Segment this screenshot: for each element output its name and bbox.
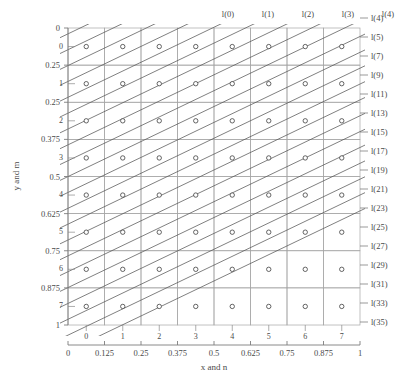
inner-row-index-label: 5 bbox=[59, 228, 63, 236]
right-line-label: l(25) bbox=[371, 223, 388, 232]
data-point-marker bbox=[230, 119, 234, 123]
y-axis-title: y and m bbox=[12, 162, 21, 191]
data-point-marker bbox=[230, 304, 234, 308]
data-point-marker bbox=[194, 81, 198, 85]
right-line-label: l(17) bbox=[371, 147, 388, 156]
data-point-marker bbox=[84, 119, 88, 123]
data-point-marker bbox=[340, 304, 344, 308]
figure-container: 00.250.250.3750.50.6250.750.8751 00.1250… bbox=[0, 0, 406, 382]
data-point-marker bbox=[303, 304, 307, 308]
right-line-label: l(7) bbox=[371, 52, 383, 61]
x-axis-tick-label: 0 bbox=[66, 349, 70, 358]
data-point-marker bbox=[303, 156, 307, 160]
y-axis-tick-label: 0.625 bbox=[14, 209, 60, 218]
y-axis-tick-label: 0.25 bbox=[14, 61, 60, 70]
inner-column-index-label: 1 bbox=[121, 333, 125, 341]
data-point-marker bbox=[303, 81, 307, 85]
data-point-marker bbox=[267, 267, 271, 271]
data-point-marker bbox=[340, 193, 344, 197]
x-axis-tick-label: 0.375 bbox=[168, 349, 187, 358]
inner-row-index-label: 4 bbox=[59, 191, 63, 199]
data-point-marker bbox=[84, 44, 88, 48]
data-point-marker bbox=[194, 156, 198, 160]
data-point-marker bbox=[84, 304, 88, 308]
right-line-label: l(19) bbox=[371, 166, 388, 175]
data-point-marker bbox=[267, 81, 271, 85]
data-point-marker bbox=[267, 119, 271, 123]
data-point-marker bbox=[157, 119, 161, 123]
inner-column-index-label: 5 bbox=[267, 333, 271, 341]
data-point-marker bbox=[303, 119, 307, 123]
diagonal-line bbox=[58, 0, 366, 23]
data-point-marker bbox=[84, 193, 88, 197]
data-point-marker bbox=[194, 304, 198, 308]
x-axis-tick-label: 0.5 bbox=[209, 349, 220, 358]
y-axis-tick-label: 0.25 bbox=[14, 98, 60, 107]
inner-row-index-label: 7 bbox=[59, 302, 63, 310]
top-line-label: l(3) bbox=[342, 10, 354, 19]
data-point-marker bbox=[340, 230, 344, 234]
data-point-marker bbox=[230, 44, 234, 48]
data-point-marker bbox=[340, 81, 344, 85]
x-axis-tick-label: 0.25 bbox=[134, 349, 149, 358]
data-point-marker bbox=[230, 193, 234, 197]
data-point-marker bbox=[267, 230, 271, 234]
data-point-marker bbox=[84, 81, 88, 85]
data-point-marker bbox=[121, 81, 125, 85]
right-line-label: l(9) bbox=[371, 71, 383, 80]
x-axis-ticks bbox=[68, 341, 360, 345]
data-point-marker bbox=[121, 267, 125, 271]
data-point-marker bbox=[194, 267, 198, 271]
data-point-marker bbox=[157, 230, 161, 234]
x-axis-tick-label: 0.125 bbox=[95, 349, 114, 358]
data-point-marker bbox=[340, 44, 344, 48]
data-point-marker bbox=[84, 230, 88, 234]
data-point-marker bbox=[267, 193, 271, 197]
data-point-marker bbox=[303, 267, 307, 271]
inner-column-index-label: 6 bbox=[303, 333, 307, 341]
data-point-marker bbox=[157, 267, 161, 271]
inner-row-index-label: 6 bbox=[59, 265, 63, 273]
data-point-marker bbox=[157, 81, 161, 85]
x-axis-tick-label: 0.75 bbox=[280, 349, 295, 358]
top-line-label: l(4) bbox=[382, 10, 394, 19]
x-axis-title: x and n bbox=[201, 363, 228, 372]
inner-column-index-label: 2 bbox=[157, 333, 161, 341]
data-point-marker bbox=[230, 230, 234, 234]
data-point-marker bbox=[121, 156, 125, 160]
y-axis-tick-label: 1 bbox=[14, 321, 60, 330]
data-point-marker bbox=[340, 156, 344, 160]
right-line-label: l(11) bbox=[371, 90, 387, 99]
right-line-label: l(21) bbox=[371, 185, 388, 194]
data-point-marker bbox=[157, 304, 161, 308]
inner-row-index-label: 1 bbox=[59, 80, 63, 88]
inner-row-index-label: 0 bbox=[59, 43, 63, 51]
data-point-marker bbox=[157, 44, 161, 48]
x-axis-tick-label: 0.625 bbox=[241, 349, 260, 358]
data-point-marker bbox=[121, 119, 125, 123]
data-point-marker bbox=[194, 230, 198, 234]
inner-column-index-label: 4 bbox=[230, 333, 234, 341]
inner-column-index-label: 0 bbox=[84, 333, 88, 341]
data-point-marker bbox=[194, 119, 198, 123]
data-point-marker bbox=[230, 156, 234, 160]
right-line-label: l(35) bbox=[371, 318, 388, 327]
data-point-marker bbox=[340, 267, 344, 271]
data-point-marker bbox=[340, 119, 344, 123]
data-point-marker bbox=[267, 44, 271, 48]
data-point-marker bbox=[84, 267, 88, 271]
inner-column-index-label: 7 bbox=[340, 333, 344, 341]
data-point-marker bbox=[303, 44, 307, 48]
top-line-label: l(0) bbox=[222, 10, 234, 19]
right-line-label: l(15) bbox=[371, 128, 388, 137]
data-point-marker bbox=[303, 193, 307, 197]
right-line-label: l(5) bbox=[371, 33, 383, 42]
inner-row-index-label: 3 bbox=[59, 154, 63, 162]
x-axis-tick-label: 1 bbox=[358, 349, 362, 358]
x-axis-tick-label: 0.875 bbox=[314, 349, 333, 358]
data-point-marker bbox=[267, 304, 271, 308]
inner-column-index-label: 3 bbox=[194, 333, 198, 341]
data-point-marker bbox=[121, 304, 125, 308]
data-point-marker bbox=[303, 230, 307, 234]
inner-row-index-label: 2 bbox=[59, 117, 63, 125]
